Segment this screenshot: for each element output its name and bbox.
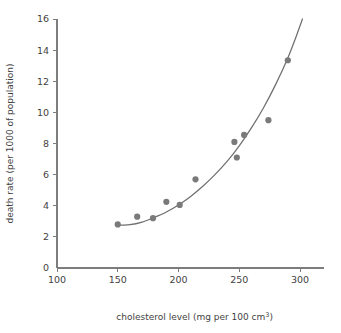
y-tick-label: 4 — [43, 200, 49, 211]
data-point — [241, 132, 247, 138]
data-point — [265, 117, 271, 123]
y-tick-label: 10 — [37, 107, 49, 118]
data-point — [285, 57, 291, 63]
data-point — [177, 202, 183, 208]
y-tick-label: 6 — [43, 169, 49, 180]
x-axis: 100150200250300 — [48, 268, 324, 285]
data-point — [150, 215, 156, 221]
plot-area: 0246810121416 100150200250300 cholestero… — [0, 0, 341, 333]
y-tick-label: 8 — [43, 138, 49, 149]
data-point — [234, 154, 240, 160]
y-tick-label: 2 — [43, 231, 49, 242]
data-point — [115, 221, 121, 227]
y-tick-label: 0 — [43, 262, 49, 273]
x-axis-title-base: cholesterol level (mg per 100 cm — [116, 312, 265, 322]
data-point — [192, 176, 198, 182]
y-tick-label: 16 — [37, 13, 49, 24]
y-axis-title: death rate (per 1000 of population) — [5, 63, 15, 223]
x-tick-label: 100 — [48, 274, 66, 285]
y-tick-label: 12 — [37, 76, 49, 87]
data-points — [115, 57, 291, 227]
data-point — [231, 139, 237, 145]
regression-curve — [118, 19, 303, 225]
x-tick-label: 300 — [291, 274, 309, 285]
x-axis-title: cholesterol level (mg per 100 cm3) — [116, 311, 273, 322]
fitted-curve — [118, 19, 303, 225]
data-point — [134, 214, 140, 220]
x-tick-label: 200 — [169, 274, 187, 285]
x-tick-label: 150 — [109, 274, 127, 285]
x-axis-title-tail: ) — [269, 312, 273, 322]
scatter-chart: 0246810121416 100150200250300 cholestero… — [0, 0, 341, 333]
y-tick-label: 14 — [37, 45, 49, 56]
data-point — [163, 199, 169, 205]
x-tick-label: 250 — [230, 274, 248, 285]
y-axis: 0246810121416 — [37, 13, 57, 273]
